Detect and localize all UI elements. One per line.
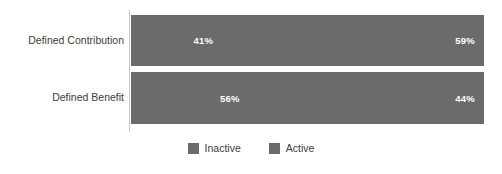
category-axis-labels: Defined Contribution Defined Benefit (0, 0, 124, 138)
plot-area: Defined Contribution Defined Benefit 41%… (0, 0, 502, 138)
bar-segment-active[interactable]: 44% (329, 72, 484, 124)
category-label-defined-benefit: Defined Benefit (0, 91, 124, 103)
bar-row-defined-contribution: 41% 59% (131, 15, 484, 66)
bar-segment-label: 59% (455, 35, 475, 46)
stacked-bar-chart: Defined Contribution Defined Benefit 41%… (0, 0, 502, 174)
bar-segment-inactive[interactable]: 56% (131, 72, 329, 124)
chart-legend: Inactive Active (0, 142, 502, 154)
bar-segment-label: 44% (455, 93, 475, 104)
category-label-defined-contribution: Defined Contribution (0, 34, 124, 46)
legend-item-inactive[interactable]: Inactive (188, 142, 241, 154)
legend-item-active[interactable]: Active (269, 142, 315, 154)
category-axis-line (129, 10, 130, 132)
square-swatch-icon (188, 143, 199, 154)
legend-item-label: Active (286, 142, 315, 154)
bar-row-defined-benefit: 56% 44% (131, 72, 484, 124)
legend-item-label: Inactive (205, 142, 241, 154)
bar-segment-active[interactable]: 59% (276, 15, 484, 66)
bar-segment-label: 56% (220, 93, 240, 104)
square-swatch-icon (269, 143, 280, 154)
bar-segment-label: 41% (194, 35, 214, 46)
bar-segment-inactive[interactable]: 41% (131, 15, 276, 66)
